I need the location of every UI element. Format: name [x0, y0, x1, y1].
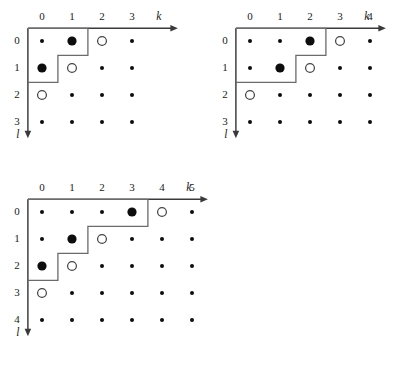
- k-tick-label: 0: [39, 10, 45, 22]
- lattice-point: [130, 291, 134, 295]
- lattice-diagram-1: 01230123kl: [8, 11, 182, 156]
- lattice-point: [40, 318, 44, 322]
- lattice-point-open: [98, 235, 107, 244]
- l-axis-arrowhead: [25, 329, 32, 337]
- lattice-point: [248, 39, 252, 43]
- lattice-point-filled-large: [67, 36, 76, 45]
- lattice-point: [40, 210, 44, 214]
- lattice-point: [368, 93, 372, 97]
- lattice-point: [308, 93, 312, 97]
- l-tick-label: 3: [222, 115, 228, 127]
- lattice-point: [248, 120, 252, 124]
- k-axis-arrowhead: [170, 25, 178, 32]
- lattice-point-filled-large: [275, 63, 284, 72]
- k-tick-label: 0: [39, 181, 45, 193]
- lattice-point: [130, 93, 134, 97]
- k-tick-label: 3: [129, 10, 135, 22]
- lattice-point: [70, 93, 74, 97]
- l-tick-label: 0: [14, 205, 20, 217]
- l-tick-label: 1: [14, 232, 20, 244]
- lattice-point-open: [38, 91, 47, 100]
- lattice-point: [40, 120, 44, 124]
- lattice-point: [368, 39, 372, 43]
- k-axis-arrowhead: [200, 196, 208, 203]
- lattice-point: [100, 210, 104, 214]
- lattice-point: [160, 264, 164, 268]
- lattice-point-open: [68, 64, 77, 73]
- lattice-point: [100, 66, 104, 70]
- lattice-point: [130, 39, 134, 43]
- lattice-point: [130, 237, 134, 241]
- k-tick-label: 3: [129, 181, 135, 193]
- lattice-diagram-2: 012340123kl: [216, 11, 418, 156]
- lattice-point: [308, 120, 312, 124]
- lattice-point-filled-large: [305, 36, 314, 45]
- lattice-point-open: [68, 262, 77, 271]
- lattice-point: [278, 39, 282, 43]
- lattice-point: [368, 120, 372, 124]
- k-tick-label: 1: [277, 10, 283, 22]
- l-tick-label: 2: [222, 88, 228, 100]
- k-tick-label: 2: [99, 181, 105, 193]
- l-tick-label: 3: [14, 286, 20, 298]
- lattice-point: [130, 318, 134, 322]
- k-tick-label: 2: [307, 10, 313, 22]
- lattice-point: [100, 318, 104, 322]
- k-tick-label: 2: [99, 10, 105, 22]
- lattice-point: [338, 66, 342, 70]
- lattice-point: [100, 93, 104, 97]
- lattice-point: [248, 66, 252, 70]
- lattice-point: [160, 318, 164, 322]
- lattice-point: [160, 237, 164, 241]
- lattice-point-open: [98, 37, 107, 46]
- lattice-point: [100, 291, 104, 295]
- lattice-point: [190, 210, 194, 214]
- lattice-point-open: [158, 208, 167, 217]
- lattice-point-open: [306, 64, 315, 73]
- l-tick-label: 0: [14, 34, 20, 46]
- lattice-point: [130, 264, 134, 268]
- lattice-point: [70, 291, 74, 295]
- lattice-point-open: [246, 91, 255, 100]
- lattice-point: [130, 120, 134, 124]
- lattice-point: [40, 39, 44, 43]
- figure-canvas: 01230123kl012340123kl01234501234kl: [0, 0, 418, 376]
- l-axis-label: l: [224, 128, 227, 140]
- l-tick-label: 1: [222, 61, 228, 73]
- lattice-diagram-3: 01234501234kl: [8, 182, 242, 354]
- k-tick-label: 0: [247, 10, 253, 22]
- lattice-point: [70, 210, 74, 214]
- lattice-point: [190, 237, 194, 241]
- lattice-point: [190, 291, 194, 295]
- k-axis-arrowhead: [378, 25, 386, 32]
- l-axis-arrowhead: [233, 131, 240, 139]
- l-tick-label: 1: [14, 61, 20, 73]
- l-tick-label: 2: [14, 88, 20, 100]
- k-tick-label: 1: [69, 181, 75, 193]
- k-tick-label: 3: [337, 10, 343, 22]
- l-axis-arrowhead: [25, 131, 32, 139]
- lattice-point: [338, 120, 342, 124]
- l-tick-label: 4: [14, 313, 20, 325]
- lattice-point: [40, 237, 44, 241]
- partition-boundary: [28, 28, 88, 82]
- lattice-point: [160, 291, 164, 295]
- lattice-point-filled-large: [37, 63, 46, 72]
- k-tick-label: 4: [159, 181, 165, 193]
- lattice-point: [338, 93, 342, 97]
- lattice-point: [100, 120, 104, 124]
- lattice-point: [70, 318, 74, 322]
- lattice-point-filled-large: [127, 207, 136, 216]
- l-tick-label: 3: [14, 115, 20, 127]
- lattice-point: [190, 318, 194, 322]
- lattice-point: [190, 264, 194, 268]
- partition-boundary: [236, 28, 326, 82]
- lattice-point: [100, 264, 104, 268]
- lattice-point: [278, 93, 282, 97]
- lattice-point: [278, 120, 282, 124]
- l-tick-label: 0: [222, 34, 228, 46]
- lattice-point-open: [336, 37, 345, 46]
- k-axis-label: k: [186, 181, 192, 193]
- lattice-point-open: [38, 289, 47, 298]
- l-axis-label: l: [16, 326, 19, 338]
